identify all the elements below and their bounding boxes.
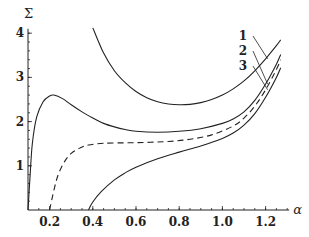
series-3-line [50,60,281,210]
x-tick-label: 1.0 [212,215,233,229]
x-axis-label: α [293,202,302,217]
series-label-2: 2 [239,44,247,58]
series-annotations: 123 [239,29,268,90]
series-2-line [28,54,281,210]
y-tick-label: 1 [16,159,24,173]
x-tick-label: 1.2 [255,215,276,229]
x-tick-label: 0.8 [169,215,190,229]
y-ticks: 1234 [16,26,32,173]
x-tick-label: 0.4 [82,215,103,229]
x-tick-label: 0.6 [126,215,147,229]
y-tick-label: 3 [16,70,24,84]
series-unlabeled-line [88,68,280,210]
y-tick-label: 2 [16,115,24,129]
chart: 0.20.40.60.81.01.2 1234 123 α Σ [0,0,309,237]
y-tick-label: 4 [16,26,24,40]
y-axis-label: Σ [24,6,33,21]
annotation-leader-line [253,66,268,90]
series-label-3: 3 [239,59,247,73]
series-label-1: 1 [239,29,247,43]
series-1-line [93,28,281,105]
x-tick-label: 0.2 [39,215,60,229]
